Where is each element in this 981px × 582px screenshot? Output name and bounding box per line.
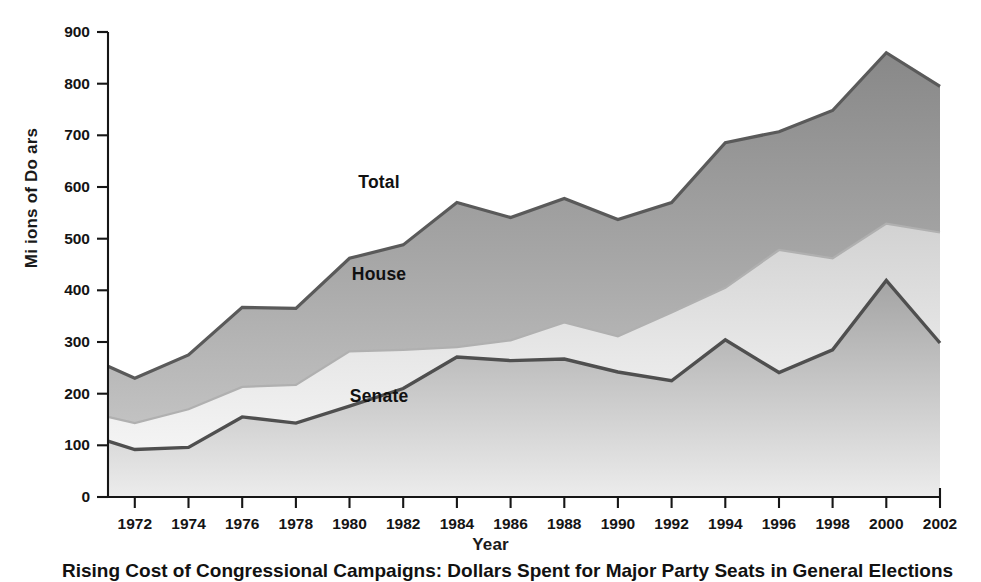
x-tick-label: 2002	[923, 515, 957, 533]
series-label-senate: Senate	[350, 386, 409, 407]
y-tick-label: 400	[28, 281, 90, 299]
figure-caption: Rising Cost of Congressional Campaigns: …	[62, 561, 972, 582]
y-tick-label: 0	[28, 488, 90, 506]
chart-plot-area	[0, 0, 981, 560]
x-tick-label: 1994	[708, 515, 742, 533]
x-tick-label: 1992	[654, 515, 688, 533]
area-chart-figure: Mi ions of Do ars Year 01002003004005006…	[0, 0, 981, 560]
x-tick-label: 1990	[601, 515, 635, 533]
y-tick-label: 200	[28, 385, 90, 403]
x-tick-label: 1986	[493, 515, 527, 533]
y-tick-label: 900	[28, 23, 90, 41]
series-bands	[108, 53, 940, 497]
y-tick-label: 100	[28, 436, 90, 454]
x-tick-label: 1988	[547, 515, 581, 533]
x-tick-label: 2000	[869, 515, 903, 533]
x-tick-label: 1978	[279, 515, 313, 533]
chart-screenshot: Mi ions of Do ars Year 01002003004005006…	[0, 0, 981, 582]
series-label-total: Total	[358, 171, 400, 192]
x-axis-title: Year	[0, 535, 981, 555]
x-tick-label: 1996	[762, 515, 796, 533]
series-label-house: House	[352, 263, 406, 284]
x-tick-label: 1976	[225, 515, 259, 533]
x-tick-label: 1980	[332, 515, 366, 533]
y-tick-label: 300	[28, 333, 90, 351]
x-tick-label: 1974	[171, 515, 205, 533]
y-tick-label: 500	[28, 230, 90, 248]
x-tick-label: 1998	[815, 515, 849, 533]
figure-caption-text: Rising Cost of Congressional Campaigns: …	[62, 561, 972, 580]
y-tick-label: 800	[28, 75, 90, 93]
x-tick-label: 1982	[386, 515, 420, 533]
x-tick-label: 1984	[440, 515, 474, 533]
y-tick-label: 700	[28, 126, 90, 144]
x-tick-label: 1972	[118, 515, 152, 533]
y-tick-label: 600	[28, 178, 90, 196]
